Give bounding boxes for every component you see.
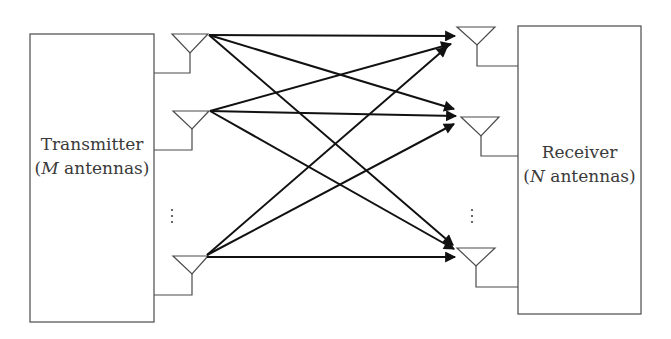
transmitter-label: Transmitter (M antennas): [30, 132, 154, 180]
transmitter-antenna-symbol: M: [41, 158, 58, 178]
receiver-label: Receiver (N antennas): [518, 140, 641, 188]
arrow-txm-rx2: [207, 124, 454, 255]
receiver-title: Receiver: [518, 140, 641, 164]
arrow-tx1-rxn: [209, 35, 453, 245]
tx-ellipsis: [169, 208, 175, 224]
arrow-tx2-rx1: [210, 44, 451, 111]
rx-antenna-n-icon: [457, 248, 518, 287]
receiver-antenna-text: antennas: [545, 166, 629, 186]
mimo-diagram: Transmitter (M antennas) Receiver (N ant…: [0, 0, 671, 339]
rx-ellipsis: [469, 208, 475, 224]
rx-antenna-2-icon: [461, 117, 518, 156]
receiver-antenna-symbol: N: [530, 166, 545, 186]
tx-antenna-1-icon: [154, 34, 208, 73]
channel-arrows: [207, 35, 456, 257]
transmitter-antenna-text: antennas: [59, 158, 143, 178]
arrow-tx1-rx1: [209, 35, 455, 36]
tx-antenna-m-icon: [154, 256, 208, 295]
rx-antenna-1-icon: [457, 27, 518, 66]
arrow-tx2-rxn: [210, 111, 454, 249]
tx-antenna-2-icon: [154, 111, 209, 150]
transmitter-title: Transmitter: [30, 132, 154, 156]
transmitter-subtitle: (M antennas): [30, 156, 154, 180]
arrow-tx2-rx2: [210, 111, 456, 116]
receiver-subtitle: (N antennas): [518, 164, 641, 188]
